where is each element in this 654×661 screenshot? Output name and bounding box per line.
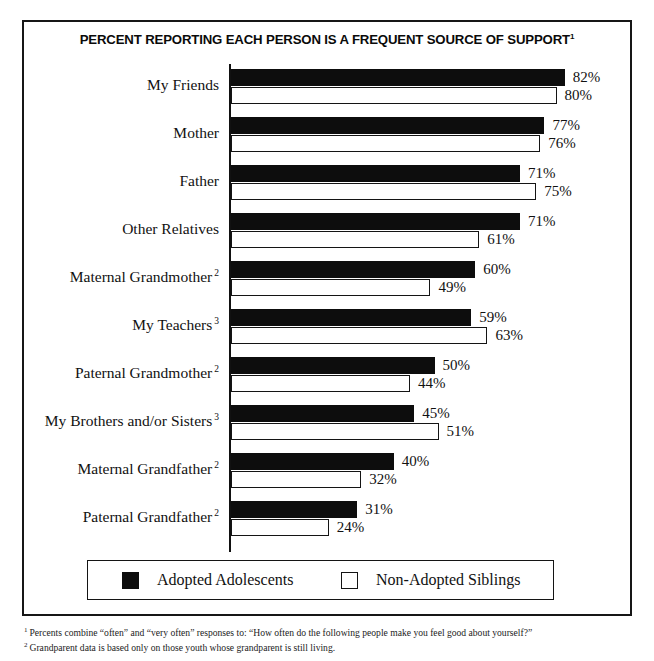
bar-non-adopted-siblings[interactable] <box>231 327 487 344</box>
category-label: Mother <box>173 125 219 141</box>
bar-group: Paternal Grandfather231%24% <box>24 500 634 548</box>
bar-non-adopted-siblings[interactable] <box>231 423 439 440</box>
footnote-2-marker: 2 <box>24 641 28 649</box>
bar-adopted-adolescents[interactable] <box>231 501 357 518</box>
bar-non-adopted-siblings[interactable] <box>231 135 540 152</box>
bar-value-label: 40% <box>402 453 430 470</box>
chart-frame: PERCENT REPORTING EACH PERSON IS A FREQU… <box>22 20 632 616</box>
bar-group: Paternal Grandmother250%44% <box>24 356 634 404</box>
bar-adopted-adolescents[interactable] <box>231 309 471 326</box>
bar-group: Maternal Grandfather240%32% <box>24 452 634 500</box>
bar-adopted-adolescents[interactable] <box>231 117 544 134</box>
category-label-text: Mother <box>173 124 219 141</box>
bar-adopted-adolescents[interactable] <box>231 165 520 182</box>
chart-legend: Adopted Adolescents Non-Adopted Siblings <box>87 560 554 600</box>
category-label: Father <box>179 173 219 189</box>
bar-value-label: 32% <box>369 471 397 488</box>
category-label-text: My Brothers and/or Sisters <box>45 412 212 429</box>
category-label-text: Maternal Grandmother <box>70 268 212 285</box>
category-label-text: Other Relatives <box>122 220 219 237</box>
bar-value-label: 24% <box>337 519 365 536</box>
category-label: Paternal Grandfather2 <box>83 509 219 525</box>
bar-value-label: 61% <box>487 231 515 248</box>
hollow-square-icon <box>341 572 358 589</box>
category-label-text: Maternal Grandfather <box>78 460 213 477</box>
bar-value-label: 44% <box>418 375 446 392</box>
bar-group: Maternal Grandmother260%49% <box>24 260 634 308</box>
bar-value-label: 59% <box>479 309 507 326</box>
bar-group: Mother77%76% <box>24 116 634 164</box>
bar-non-adopted-siblings[interactable] <box>231 279 430 296</box>
bar-value-label: 50% <box>443 357 471 374</box>
category-label: My Teachers3 <box>132 317 219 333</box>
bar-adopted-adolescents[interactable] <box>231 357 435 374</box>
chart-title-text: PERCENT REPORTING EACH PERSON IS A FREQU… <box>80 32 570 47</box>
chart-page: PERCENT REPORTING EACH PERSON IS A FREQU… <box>0 0 654 661</box>
footnotes: 1Percents combine “often” and “very ofte… <box>24 624 644 654</box>
bar-group: My Friends82%80% <box>24 68 634 116</box>
bar-value-label: 63% <box>495 327 523 344</box>
bar-group: My Brothers and/or Sisters345%51% <box>24 404 634 452</box>
category-footnote-marker: 3 <box>214 316 219 326</box>
bar-value-label: 51% <box>447 423 475 440</box>
bar-adopted-adolescents[interactable] <box>231 453 394 470</box>
bar-value-label: 82% <box>573 69 601 86</box>
category-label: Paternal Grandmother2 <box>75 365 219 381</box>
plot-area: My Friends82%80%Mother77%76%Father71%75%… <box>24 62 634 558</box>
bar-adopted-adolescents[interactable] <box>231 213 520 230</box>
bar-non-adopted-siblings[interactable] <box>231 87 557 104</box>
category-footnote-marker: 3 <box>214 412 219 422</box>
category-label-text: My Friends <box>147 76 219 93</box>
category-footnote-marker: 2 <box>214 268 219 278</box>
category-label: Maternal Grandfather2 <box>78 461 219 477</box>
category-label: My Brothers and/or Sisters3 <box>45 413 219 429</box>
category-label: Maternal Grandmother2 <box>70 269 219 285</box>
category-label-text: Paternal Grandmother <box>75 364 212 381</box>
bar-value-label: 71% <box>528 213 556 230</box>
category-label-text: My Teachers <box>132 316 212 333</box>
bar-group: Father71%75% <box>24 164 634 212</box>
bar-adopted-adolescents[interactable] <box>231 405 414 422</box>
bar-non-adopted-siblings[interactable] <box>231 231 479 248</box>
category-footnote-marker: 2 <box>214 508 219 518</box>
bar-group: My Teachers359%63% <box>24 308 634 356</box>
footnote-2-text: Grandparent data is based only on those … <box>30 642 336 653</box>
bar-non-adopted-siblings[interactable] <box>231 519 329 536</box>
category-footnote-marker: 2 <box>214 460 219 470</box>
category-footnote-marker: 2 <box>214 364 219 374</box>
bar-non-adopted-siblings[interactable] <box>231 183 536 200</box>
footnote-2: 2Grandparent data is based only on those… <box>24 639 644 654</box>
legend-label-non-adopted-siblings: Non-Adopted Siblings <box>376 571 520 589</box>
category-label: My Friends <box>147 77 219 93</box>
bar-value-label: 76% <box>548 135 576 152</box>
bar-group: Other Relatives71%61% <box>24 212 634 260</box>
bar-value-label: 60% <box>483 261 511 278</box>
bar-value-label: 77% <box>552 117 580 134</box>
bar-non-adopted-siblings[interactable] <box>231 375 410 392</box>
category-label: Other Relatives <box>122 221 219 237</box>
category-label-text: Father <box>179 172 219 189</box>
bar-value-label: 71% <box>528 165 556 182</box>
chart-title-footnote-marker: 1 <box>570 32 574 41</box>
bar-value-label: 45% <box>422 405 450 422</box>
legend-entry-non-adopted-siblings[interactable]: Non-Adopted Siblings <box>341 568 520 592</box>
chart-title: PERCENT REPORTING EACH PERSON IS A FREQU… <box>24 32 630 47</box>
legend-entry-adopted-adolescents[interactable]: Adopted Adolescents <box>122 568 293 592</box>
footnote-1-text: Percents combine “often” and “very often… <box>30 627 533 638</box>
legend-label-adopted-adolescents: Adopted Adolescents <box>157 571 293 589</box>
bar-value-label: 75% <box>544 183 572 200</box>
bar-adopted-adolescents[interactable] <box>231 261 475 278</box>
footnote-1: 1Percents combine “often” and “very ofte… <box>24 624 644 639</box>
bar-value-label: 80% <box>565 87 593 104</box>
category-label-text: Paternal Grandfather <box>83 508 213 525</box>
bar-value-label: 49% <box>438 279 466 296</box>
bar-adopted-adolescents[interactable] <box>231 69 565 86</box>
footnote-1-marker: 1 <box>24 626 28 634</box>
solid-square-icon <box>122 572 139 589</box>
bar-value-label: 31% <box>365 501 393 518</box>
bar-non-adopted-siblings[interactable] <box>231 471 361 488</box>
